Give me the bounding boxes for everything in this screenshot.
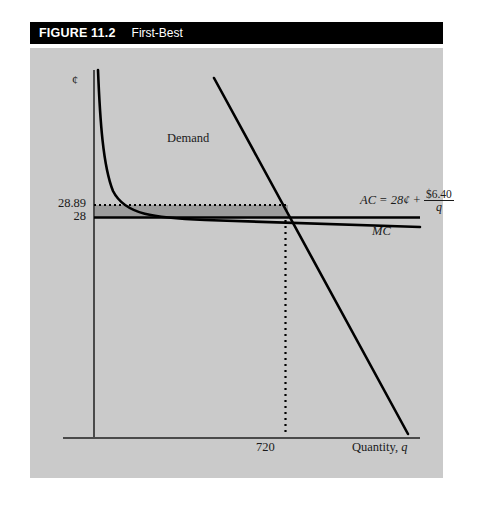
demand-curve-label: Demand	[167, 131, 209, 146]
x-axis-label-text: Quantity,	[352, 440, 401, 454]
chart-panel: ¢ 28.89 28 720 Quantity, q Demand AC = 2…	[30, 48, 443, 478]
figure-header: FIGURE 11.2 First-Best	[30, 22, 443, 44]
ac-label-prefix: AC = 28¢ +	[360, 193, 421, 208]
ac-label-fraction: $6.40 q	[424, 188, 454, 214]
x-axis-label-variable: q	[401, 440, 407, 454]
demand-curve	[214, 78, 408, 434]
x-tick-label-720: 720	[256, 440, 275, 455]
ac-label-numerator: $6.40	[424, 188, 454, 200]
y-axis-unit-label: ¢	[72, 73, 78, 88]
marginal-cost-label: MC	[372, 224, 391, 239]
figure-title: First-Best	[132, 26, 183, 40]
x-axis-label: Quantity, q	[352, 440, 407, 455]
average-cost-label: AC = 28¢ + $6.40 q	[360, 188, 454, 214]
y-tick-label-28: 28	[28, 209, 86, 224]
chart-curves	[30, 48, 443, 478]
ac-label-denominator: q	[434, 201, 444, 214]
figure-number: FIGURE 11.2	[39, 26, 116, 40]
